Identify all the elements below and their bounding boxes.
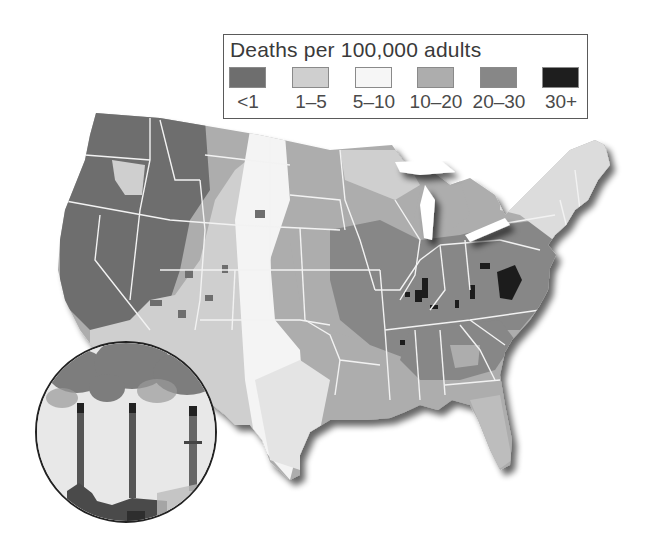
region-florida	[470, 395, 512, 470]
legend-label-30plus: 30+	[526, 91, 596, 113]
legend-label-20-30: 20–30	[464, 91, 534, 113]
legend-swatch-10-20	[417, 67, 454, 88]
legend-label-10-20: 10–20	[401, 91, 471, 113]
legend-swatch-5-10	[355, 67, 392, 88]
legend-swatch-lt1	[229, 67, 266, 88]
region-southeast-patch	[450, 345, 480, 368]
smokestack-photo	[35, 341, 217, 523]
region-texas-5to10	[255, 360, 330, 470]
legend-label-1-5: 1–5	[276, 91, 346, 113]
legend: Deaths per 100,000 adults <1 1–5 5–10 10…	[223, 34, 588, 119]
legend-swatch-30plus	[542, 67, 579, 88]
smokestack-icon	[37, 343, 217, 523]
legend-label-lt1: <1	[213, 91, 283, 113]
legend-title: Deaths per 100,000 adults	[230, 38, 481, 62]
legend-label-5-10: 5–10	[339, 91, 409, 113]
legend-swatch-1-5	[292, 67, 329, 88]
legend-swatch-20-30	[480, 67, 517, 88]
